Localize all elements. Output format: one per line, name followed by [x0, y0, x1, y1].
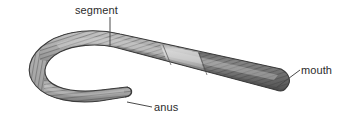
head-segments [198, 52, 300, 100]
label-mouth: mouth [301, 64, 332, 76]
label-anus: anus [154, 101, 178, 113]
earthworm-diagram: segment mouth anus [0, 0, 349, 128]
anus-leader-line [127, 102, 152, 107]
label-segment: segment [75, 4, 118, 16]
